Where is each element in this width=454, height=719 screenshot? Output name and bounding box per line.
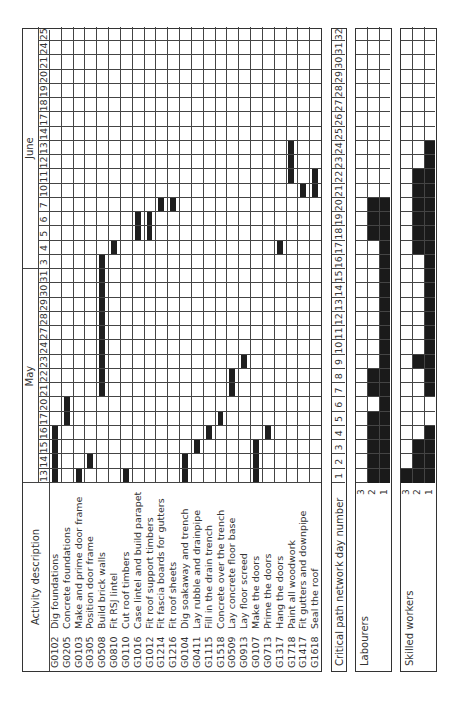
hist-gridline <box>356 368 390 369</box>
hist-gridline <box>356 97 390 98</box>
hist-level-line <box>367 27 368 483</box>
hist-gridline <box>401 283 435 284</box>
cp-gridline <box>332 169 345 170</box>
date-label: 15 <box>38 440 49 454</box>
hist-gridline <box>401 397 435 398</box>
activity-bar <box>64 398 70 427</box>
cp-gridline <box>332 397 345 398</box>
activity-code: G0107 <box>250 636 261 668</box>
hist-gridline <box>356 283 390 284</box>
activity-code: G0411 <box>191 636 202 668</box>
date-label: 14 <box>38 455 49 469</box>
histogram-fill <box>379 312 390 327</box>
labourers-label: Labourers <box>359 616 370 666</box>
hist-gridline <box>356 211 390 212</box>
cp-gridline <box>332 226 345 227</box>
histogram-fill <box>424 383 435 398</box>
critical-path-day: 21 <box>333 184 344 198</box>
month-label: June <box>23 27 37 269</box>
hist-gridline <box>356 169 390 170</box>
day-gridline <box>38 382 321 383</box>
activity-name: Lay rubble and drainpipe <box>191 510 202 629</box>
hist-gridline <box>401 325 435 326</box>
cp-gridline <box>332 283 345 284</box>
day-gridline <box>38 183 321 184</box>
day-gridline <box>38 268 321 269</box>
hist-gridline <box>356 297 390 298</box>
histogram-fill <box>379 297 390 312</box>
activity-code: G0110 <box>120 636 131 668</box>
cp-gridline <box>332 340 345 341</box>
date-label: 6 <box>38 212 49 226</box>
cp-gridline <box>332 154 345 155</box>
hist-gridline <box>401 40 435 41</box>
activity-bar <box>147 212 153 241</box>
hist-level-line <box>412 27 413 483</box>
critical-path-day: 18 <box>333 227 344 241</box>
activity-name: Fit RSJ lintel <box>108 573 119 629</box>
hist-gridline <box>356 69 390 70</box>
activity-bar <box>312 170 318 199</box>
histogram-fill <box>379 240 390 255</box>
hist-gridline <box>356 425 390 426</box>
activity-bar <box>206 426 212 440</box>
hist-gridline <box>401 411 435 412</box>
cp-gridline <box>332 454 345 455</box>
cp-gridline <box>332 268 345 269</box>
row-gridline <box>132 27 133 483</box>
hist-gridline <box>401 368 435 369</box>
activity-name: Dig soakaway and trench <box>179 509 190 629</box>
date-label: 30 <box>38 284 49 298</box>
hist-gridline <box>356 439 390 440</box>
activity-bar <box>182 455 188 484</box>
row-gridline <box>179 27 180 483</box>
day-gridline <box>38 468 321 469</box>
critical-path-day: 31 <box>333 41 344 55</box>
row-gridline <box>297 27 298 483</box>
hist-gridline <box>356 183 390 184</box>
critical-path-day: 19 <box>333 212 344 226</box>
date-label: 27 <box>38 326 49 340</box>
hist-gridline <box>356 325 390 326</box>
row-gridline <box>155 27 156 483</box>
day-gridline <box>38 454 321 455</box>
histogram-fill <box>424 312 435 327</box>
hist-gridline <box>356 197 390 198</box>
activity-name: Concrete foundations <box>61 527 72 629</box>
day-gridline <box>38 69 321 70</box>
activity-bar <box>76 469 82 483</box>
day-gridline <box>38 126 321 127</box>
critical-path-day: 6 <box>333 398 344 412</box>
row-gridline <box>238 27 239 483</box>
date-label: 11 <box>38 170 49 184</box>
activity-bar <box>135 212 141 241</box>
day-gridline <box>38 340 321 341</box>
date-label: 4 <box>38 241 49 255</box>
activity-name: Prime the doors <box>262 554 273 629</box>
hist-gridline <box>401 140 435 141</box>
day-gridline <box>38 368 321 369</box>
histogram-fill <box>424 141 435 156</box>
hist-gridline <box>401 382 435 383</box>
hist-gridline <box>356 40 390 41</box>
activity-name: Build brick walls <box>96 552 107 629</box>
hist-gridline <box>356 454 390 455</box>
activity-bar <box>300 184 306 198</box>
histogram-fill <box>424 326 435 341</box>
cp-gridline <box>332 382 345 383</box>
histogram-fill <box>424 255 435 270</box>
hist-gridline <box>356 311 390 312</box>
hist-gridline <box>356 354 390 355</box>
hist-gridline <box>401 197 435 198</box>
date-label: 16 <box>38 426 49 440</box>
month-label: May <box>23 269 37 483</box>
day-gridline <box>38 83 321 84</box>
day-gridline <box>38 97 321 98</box>
activity-code: G0104 <box>179 636 190 668</box>
cp-gridline <box>332 468 345 469</box>
day-gridline <box>38 439 321 440</box>
activity-name: Concrete over the trench <box>215 510 226 629</box>
critical-path-day: 16 <box>333 255 344 269</box>
date-label: 31 <box>38 269 49 283</box>
activity-bar <box>229 369 235 398</box>
